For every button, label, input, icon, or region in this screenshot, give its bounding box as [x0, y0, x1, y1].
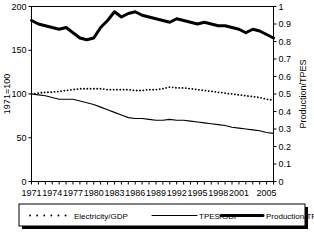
plot-frame: [32, 7, 274, 182]
right-tick-label: 0.8: [279, 37, 292, 47]
right-tick-label: 0.6: [279, 72, 292, 82]
right-tick-label: 0.2: [279, 142, 292, 152]
x-tick-label: 1980: [84, 188, 104, 198]
right-tick-label: 0.9: [279, 19, 292, 29]
legend-label-3: Production/TPES: [266, 212, 314, 221]
left-tick-label: 150: [11, 45, 26, 55]
left-axis: 050100150200: [11, 2, 31, 187]
left-tick-label: 200: [11, 2, 26, 12]
legend-label-1: Electricity/GDP: [74, 212, 128, 221]
x-tick-label: 1974: [42, 188, 62, 198]
left-tick-label: 100: [11, 89, 26, 99]
x-tick-label: 1971: [21, 188, 41, 198]
x-tick-label: 1995: [187, 188, 207, 198]
x-tick-label: 2001: [229, 188, 249, 198]
x-tick-label: 1992: [167, 188, 187, 198]
chart-figure: 050100150200 00.10.20.30.40.50.60.70.80.…: [0, 0, 314, 234]
x-tick-label: 1989: [146, 188, 166, 198]
right-axis-title: Production/TPES: [298, 59, 308, 128]
right-tick-label: 0.4: [279, 107, 292, 117]
x-tick-label: 1977: [63, 188, 83, 198]
right-tick-label: 0: [279, 177, 284, 187]
line-chart: 050100150200 00.10.20.30.40.50.60.70.80.…: [0, 0, 314, 234]
x-tick-label: 1983: [104, 188, 124, 198]
x-tick-label: 1998: [208, 188, 228, 198]
right-tick-label: 0.3: [279, 124, 292, 134]
x-tick-label: 2005: [257, 188, 277, 198]
right-tick-label: 0.7: [279, 54, 292, 64]
x-tick-label: 1986: [125, 188, 145, 198]
legend: Electricity/GDPTPES/GDPProduction/TPES: [19, 204, 314, 229]
x-axis: 1971197419771980198319861989199219951998…: [21, 182, 276, 198]
left-tick-label: 50: [16, 133, 26, 143]
left-axis-title: 1971=100: [2, 74, 12, 114]
left-tick-label: 0: [21, 177, 26, 187]
right-tick-label: 1: [279, 2, 284, 12]
right-tick-label: 0.1: [279, 159, 292, 169]
right-axis: 00.10.20.30.40.50.60.70.80.91: [274, 2, 292, 187]
right-tick-label: 0.5: [279, 89, 292, 99]
